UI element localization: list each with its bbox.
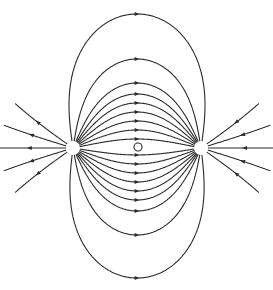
field-line [77,153,197,192]
outer-field-line-right [208,150,271,171]
arrow-icon [135,110,140,114]
arrow-icon [135,153,140,157]
arrow-icon [29,134,34,138]
outer-field-line-right [208,125,271,146]
outer-field-line-left [4,125,67,146]
arrow-icon [135,171,140,175]
arrow-icon [135,198,140,202]
field-line [76,94,198,143]
arrow-icon [135,162,140,166]
arrow-icon [135,12,140,16]
field-line [74,154,200,235]
arrow-icon [135,180,140,184]
dipole-field-diagram [0,0,273,290]
arrow-icon [135,137,140,141]
arrow-icon [29,159,34,163]
arrow-icon [27,146,32,150]
negative-charge [194,141,208,155]
arrow-icon [240,132,245,136]
arrow-icon [242,146,247,150]
arrow-icon [135,276,140,280]
arrow-icon [135,92,140,96]
arrow-icon [135,209,140,213]
outer-field-line-left [4,150,67,171]
field-line [78,150,195,164]
positive-charge [66,141,80,155]
field-line [77,103,198,144]
arrow-icon [135,119,140,123]
arrow-icon [135,81,140,85]
arrow-icon [135,57,140,61]
field-line [78,121,196,145]
arrow-icon [135,233,140,237]
arrow-icon [135,128,140,132]
arrow-icon [135,101,140,105]
arrow-icon [240,160,245,164]
arrow-icon [135,189,140,193]
midpoint-marker [134,143,142,151]
